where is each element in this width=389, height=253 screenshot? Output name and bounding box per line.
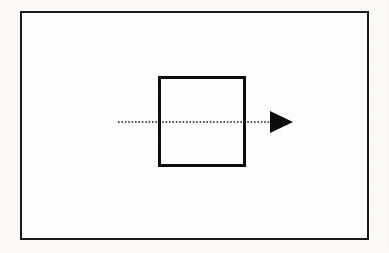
diagram-canvas <box>0 0 389 253</box>
inner-square-block <box>158 76 246 167</box>
